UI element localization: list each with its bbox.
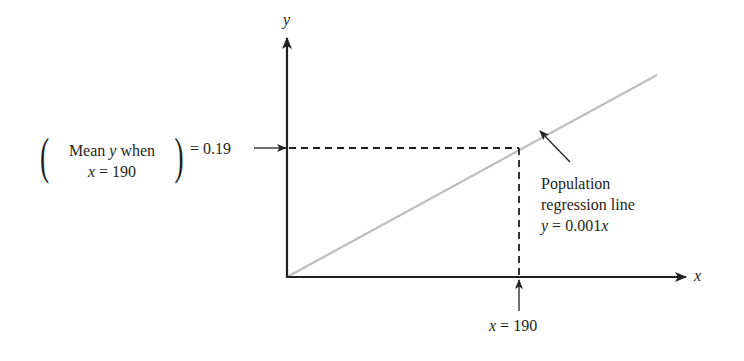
regression-equation: y = 0.001x xyxy=(541,218,608,234)
mean-annotation-line1: Mean y when xyxy=(48,142,176,160)
mean-annotation: ( Mean y when x = 190 ) xyxy=(48,135,176,185)
regression-line-pointer-arrow xyxy=(540,131,570,162)
x-axis-label: x xyxy=(694,268,701,284)
y-axis-label: y xyxy=(283,12,290,28)
x-190-label: x = 190 xyxy=(489,318,537,334)
right-paren-icon: ) xyxy=(175,131,184,181)
regression-label-line1: Population xyxy=(541,176,610,192)
mean-annotation-line2: x = 190 xyxy=(48,163,176,181)
regression-label-line2: regression line xyxy=(541,197,635,213)
mean-value-label: = 0.19 xyxy=(190,141,231,157)
